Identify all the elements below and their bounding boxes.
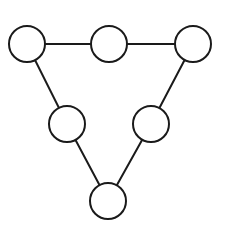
node-bottom <box>90 183 126 219</box>
triangle-graph-diagram <box>0 0 227 229</box>
nodes-group <box>9 26 211 219</box>
node-middle-left <box>49 106 85 142</box>
node-top-right <box>175 26 211 62</box>
node-top-middle <box>91 26 127 62</box>
node-top-left <box>9 26 45 62</box>
node-middle-right <box>133 106 169 142</box>
